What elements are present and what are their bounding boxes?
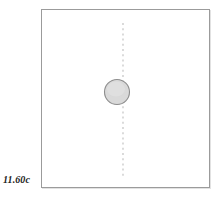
figure-root: 11.60c bbox=[0, 0, 221, 197]
diagram-canvas bbox=[42, 10, 211, 189]
diagram-panel bbox=[41, 9, 210, 188]
circle-node-highlight-icon bbox=[107, 82, 125, 97]
figure-label: 11.60c bbox=[3, 174, 30, 186]
